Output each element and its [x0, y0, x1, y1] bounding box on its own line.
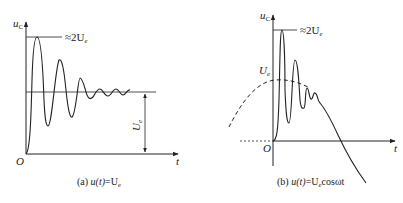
damped-oscillation-curve [26, 37, 130, 154]
origin-label: O [16, 155, 24, 167]
y-axis-label: uC [260, 9, 271, 23]
panel-b: uC O t ≈2Ue Ue (b) u(t)=Uecosωt [229, 9, 398, 189]
diagram-canvas: uC O t ≈2Ue Ue (a) u(t)=Ue uC O t ≈2Ue U… [0, 0, 403, 203]
x-axis-label: t [394, 142, 398, 154]
transient-response-curve [273, 30, 366, 183]
source-cosine-dashed [229, 80, 310, 127]
caption-a: (a) u(t)=Ue [77, 176, 121, 189]
caption-b: (b) u(t)=Uecosωt [277, 176, 345, 189]
peak-label: ≈2Ue [65, 31, 88, 45]
y-axis-label: uC [13, 17, 24, 31]
origin-label: O [263, 142, 271, 154]
panel-a: uC O t ≈2Ue Ue (a) u(t)=Ue [13, 17, 180, 189]
peak-label: ≈2Ue [300, 24, 323, 38]
steady-label: Ue [130, 120, 144, 131]
amplitude-label: Ue [259, 64, 270, 78]
x-axis-label: t [176, 155, 180, 167]
